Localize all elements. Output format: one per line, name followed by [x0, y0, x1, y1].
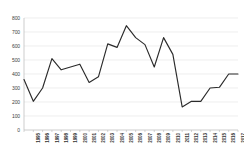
- gridlines: [24, 18, 238, 130]
- chart-plot-area: [0, 0, 244, 163]
- data-series-line: [24, 26, 238, 107]
- line-chart-figure: 0100200300400500600700800 19951996199719…: [0, 0, 244, 163]
